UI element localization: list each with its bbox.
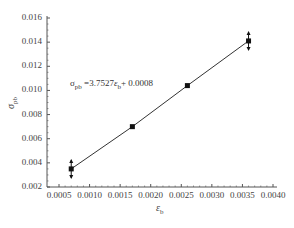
data-point-marker	[69, 166, 74, 171]
eq-sigma-sub: pb	[75, 83, 82, 91]
y-tick-label: 0.014	[22, 36, 42, 46]
x-tick-label: 0.0010	[77, 190, 102, 200]
x-tick-label: 0.0015	[108, 190, 133, 200]
eq-intercept: + 0.0008	[121, 78, 153, 88]
fit-line	[71, 41, 248, 169]
data-point-marker	[246, 38, 251, 43]
fit-equation: σpb =3.7527εb+ 0.0008	[70, 78, 153, 91]
data-point-marker	[130, 124, 135, 129]
x-tick-label: 0.0020	[138, 190, 163, 200]
x-tick-label: 0.0035	[230, 190, 255, 200]
y-axis-label: σpb	[5, 97, 19, 109]
y-tick-label: 0.008	[22, 109, 42, 119]
x-axis-label: εb	[156, 202, 163, 216]
x-tick-label: 0.0040	[261, 190, 286, 200]
y-tick-label: 0.004	[22, 157, 42, 167]
eq-coef: =3.7527	[82, 78, 114, 88]
y-tick-label: 0.016	[22, 12, 42, 22]
y-tick-label: 0.006	[22, 133, 42, 143]
y-tick-label: 0.010	[22, 84, 42, 94]
data-point-marker	[185, 83, 190, 88]
y-tick-label: 0.002	[22, 181, 42, 191]
x-tick-label: 0.0025	[169, 190, 194, 200]
y-tick-label: 0.012	[22, 60, 42, 70]
x-tick-label: 0.0030	[199, 190, 224, 200]
x-tick-label: 0.0005	[47, 190, 72, 200]
